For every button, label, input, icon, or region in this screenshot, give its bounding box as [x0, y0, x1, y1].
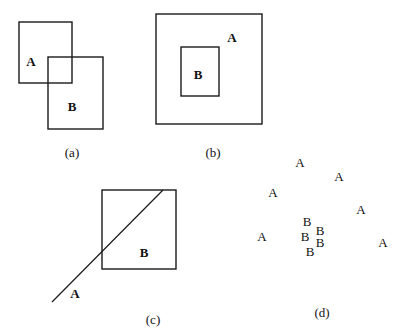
- panel-c-line-crossing: A B (c): [52, 190, 176, 327]
- panel-d-point-b: B: [301, 229, 310, 244]
- panel-c-label-a: A: [70, 286, 80, 301]
- panel-d-point-a: A: [295, 155, 305, 170]
- panel-d-point-b: B: [306, 244, 315, 259]
- panel-d-point-clusters: AAAAAA BBBBB (d): [257, 155, 388, 320]
- panel-b-label-b: B: [194, 67, 203, 82]
- panel-b-outer-box: [156, 14, 262, 124]
- panel-b-label-a: A: [227, 30, 237, 45]
- panel-a-caption: (a): [65, 145, 79, 160]
- panel-d-point-b: B: [316, 235, 325, 250]
- panel-b-caption: (b): [205, 145, 220, 160]
- panel-a-label-b: B: [68, 99, 77, 114]
- panel-d-point-a: A: [378, 235, 388, 250]
- panel-d-point-a: A: [334, 169, 344, 184]
- panel-a-overlap: A B (a): [19, 22, 103, 160]
- panel-c-caption: (c): [146, 312, 160, 327]
- panel-d-point-a: A: [268, 185, 278, 200]
- panel-c-label-b: B: [140, 245, 149, 260]
- panel-d-caption: (d): [314, 305, 329, 320]
- panel-a-label-a: A: [26, 54, 36, 69]
- panel-d-points-b: BBBBB: [301, 214, 325, 259]
- panel-b-containment: A B (b): [156, 14, 262, 160]
- spatial-relations-diagram: A B (a) A B (b) A B (c) AAAAAA BBBBB (d): [0, 0, 403, 335]
- panel-a-box-a: [19, 22, 72, 83]
- panel-d-point-a: A: [356, 202, 366, 217]
- panel-a-box-b: [48, 57, 103, 129]
- panel-d-point-a: A: [257, 229, 267, 244]
- panel-d-point-b: B: [303, 214, 312, 229]
